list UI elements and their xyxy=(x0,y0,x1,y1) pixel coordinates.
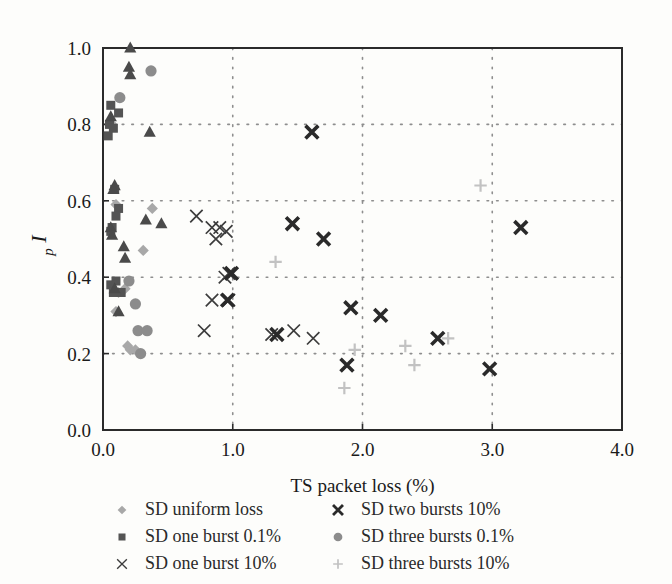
data-point-marker xyxy=(333,559,343,569)
data-point-marker xyxy=(317,233,330,246)
y-tick-label: 1.0 xyxy=(67,38,91,59)
data-point-marker xyxy=(111,212,120,221)
data-point-marker xyxy=(286,217,299,230)
data-point-marker xyxy=(140,214,152,225)
data-point-marker xyxy=(144,126,156,137)
data-point-marker xyxy=(349,344,361,356)
y-tick-label: 0.4 xyxy=(67,267,91,288)
data-point-marker xyxy=(214,221,226,233)
data-point-marker xyxy=(123,61,135,72)
data-point-marker xyxy=(145,65,156,76)
x-tick-label: 1.0 xyxy=(221,439,245,460)
data-point-marker xyxy=(374,309,387,322)
data-point-marker xyxy=(474,179,486,191)
data-point-marker xyxy=(483,362,496,375)
data-point-marker xyxy=(210,233,222,245)
x-axis-title: TS packet loss (%) xyxy=(290,475,434,497)
y-tick-label: 0.0 xyxy=(67,420,91,441)
legend-label: SD three bursts 0.1% xyxy=(361,526,514,546)
y-tick-label: 0.6 xyxy=(67,191,91,212)
gridlines xyxy=(103,48,622,430)
data-point-marker xyxy=(135,348,146,359)
legend-entry[interactable]: SD three bursts 10% xyxy=(333,553,509,573)
data-point-marker xyxy=(206,294,218,306)
y-tick-label: 0.2 xyxy=(67,344,91,365)
legend-label: SD uniform loss xyxy=(145,499,263,519)
data-point-marker xyxy=(334,533,343,542)
series-square xyxy=(104,101,126,297)
data-point-marker xyxy=(130,298,141,309)
chart-legend: SD uniform lossSD one burst 0.1%SD one b… xyxy=(117,499,514,573)
data-point-marker xyxy=(106,101,115,110)
legend-entry[interactable]: SD one burst 0.1% xyxy=(118,526,281,546)
data-point-marker xyxy=(341,359,354,372)
data-point-marker xyxy=(305,126,318,139)
data-point-marker xyxy=(514,221,527,234)
data-point-marker xyxy=(198,324,210,336)
legend-entry[interactable]: SD three bursts 0.1% xyxy=(334,526,514,546)
legend-entry[interactable]: SD uniform loss xyxy=(118,499,263,519)
data-point-marker xyxy=(118,506,127,515)
data-point-marker xyxy=(155,217,167,228)
data-point-marker xyxy=(118,240,130,251)
data-point-marker xyxy=(288,324,300,336)
data-point-marker xyxy=(408,359,420,371)
series-plus xyxy=(269,179,486,394)
data-point-marker xyxy=(344,301,357,314)
legend-label: SD one burst 10% xyxy=(145,553,277,573)
data-point-marker xyxy=(190,210,202,222)
x-tick-label: 0.0 xyxy=(91,439,115,460)
data-point-marker xyxy=(221,294,234,307)
data-point-marker xyxy=(225,267,238,280)
data-point-marker xyxy=(147,203,158,214)
data-point-marker xyxy=(333,505,343,515)
data-point-marker xyxy=(117,559,127,569)
legend-label: SD three bursts 10% xyxy=(361,553,509,573)
chart-canvas: 0.00.20.40.60.81.00.01.02.03.04.0 TS pac… xyxy=(0,0,672,584)
data-points xyxy=(104,42,528,395)
legend-entry[interactable]: SD one burst 10% xyxy=(117,553,276,573)
x-tick-label: 3.0 xyxy=(480,439,504,460)
data-point-marker xyxy=(114,92,125,103)
data-point-marker xyxy=(220,225,232,237)
legend-entry[interactable]: SD two bursts 10% xyxy=(333,499,501,519)
data-point-marker xyxy=(114,108,123,117)
series-bold-x xyxy=(221,126,527,376)
x-tick-label: 2.0 xyxy=(351,439,375,460)
axis-ticks: 0.00.20.40.60.81.00.01.02.03.04.0 xyxy=(67,38,634,460)
data-point-marker xyxy=(123,275,134,286)
data-point-marker xyxy=(269,256,281,268)
data-point-marker xyxy=(142,325,153,336)
y-axis-title-sub: p xyxy=(40,248,56,257)
scatter-plot-figure: 0.00.20.40.60.81.00.01.02.03.04.0 TS pac… xyxy=(0,0,672,584)
data-point-marker xyxy=(118,533,125,540)
series-triangle xyxy=(105,42,168,317)
data-point-marker xyxy=(338,382,350,394)
legend-label: SD one burst 0.1% xyxy=(145,526,281,546)
legend-label: SD two bursts 10% xyxy=(361,499,501,519)
data-point-marker xyxy=(138,245,149,256)
y-axis-title: Ip xyxy=(26,234,56,257)
data-point-marker xyxy=(119,252,131,263)
data-point-marker xyxy=(307,332,319,344)
x-tick-label: 4.0 xyxy=(610,439,634,460)
data-point-marker xyxy=(399,340,411,352)
y-axis-title-main: I xyxy=(26,234,51,244)
data-point-marker xyxy=(104,131,113,140)
y-tick-label: 0.8 xyxy=(67,114,91,135)
